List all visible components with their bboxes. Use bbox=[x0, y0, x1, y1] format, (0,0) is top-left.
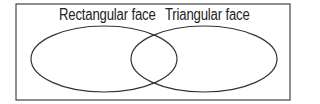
set-label-triangular-face: Triangular face bbox=[165, 6, 250, 24]
set-label-rectangular-face: Rectangular face bbox=[59, 6, 156, 24]
